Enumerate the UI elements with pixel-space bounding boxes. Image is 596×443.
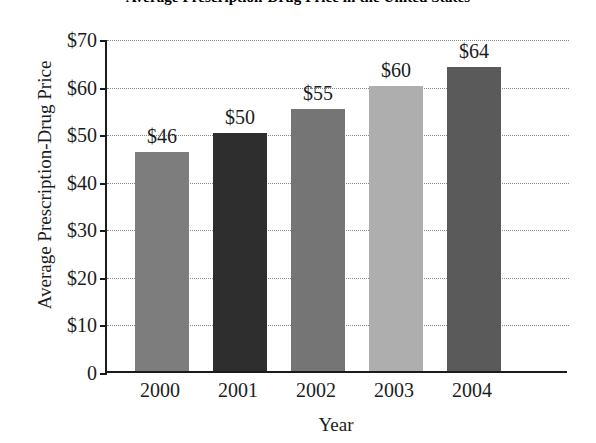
bar-value-label: $60: [381, 59, 411, 81]
y-axis-tick-label: $30: [27, 220, 97, 240]
y-axis-tick: [100, 230, 107, 232]
bar-value-label: $64: [459, 40, 489, 62]
y-axis-tick-label: $10: [27, 315, 97, 335]
x-axis-tick-label-2004: 2004: [427, 379, 517, 401]
y-axis-tick-label: 0: [27, 363, 97, 383]
bar-value-label: $50: [225, 106, 255, 128]
bar-value-label: $55: [303, 82, 333, 104]
y-axis-tick: [100, 88, 107, 90]
x-axis-tick-label-2003: 2003: [349, 379, 439, 401]
plot-area: $46$50$55$60$64: [105, 40, 567, 373]
chart-title: Average Prescription-Drug Price in the U…: [0, 0, 596, 6]
x-axis-title: Year: [105, 414, 567, 436]
y-axis-tick-label: $40: [27, 173, 97, 193]
x-axis-tick-label-2002: 2002: [271, 379, 361, 401]
y-axis-tick: [100, 40, 107, 42]
bar-2004[interactable]: $64: [447, 67, 501, 371]
y-axis-tick: [100, 135, 107, 137]
y-axis-tick: [100, 373, 107, 375]
y-axis-tick-label: $50: [27, 125, 97, 145]
bar-2002[interactable]: $55: [291, 109, 345, 371]
y-axis-tick: [100, 183, 107, 185]
y-axis-tick: [100, 278, 107, 280]
y-axis-tick-label: $70: [27, 30, 97, 50]
gridline: [107, 40, 569, 41]
x-axis-tick-label-2000: 2000: [115, 379, 205, 401]
x-axis-tick-label-2001: 2001: [193, 379, 283, 401]
y-axis-tick: [100, 325, 107, 327]
y-axis-tick-label: $60: [27, 78, 97, 98]
bar-2000[interactable]: $46: [135, 152, 189, 371]
bar-2001[interactable]: $50: [213, 133, 267, 371]
bar-2003[interactable]: $60: [369, 86, 423, 371]
bar-chart-figure: Average Prescription-Drug Price in the U…: [0, 0, 596, 443]
bar-value-label: $46: [147, 125, 177, 147]
y-axis-tick-label: $20: [27, 268, 97, 288]
